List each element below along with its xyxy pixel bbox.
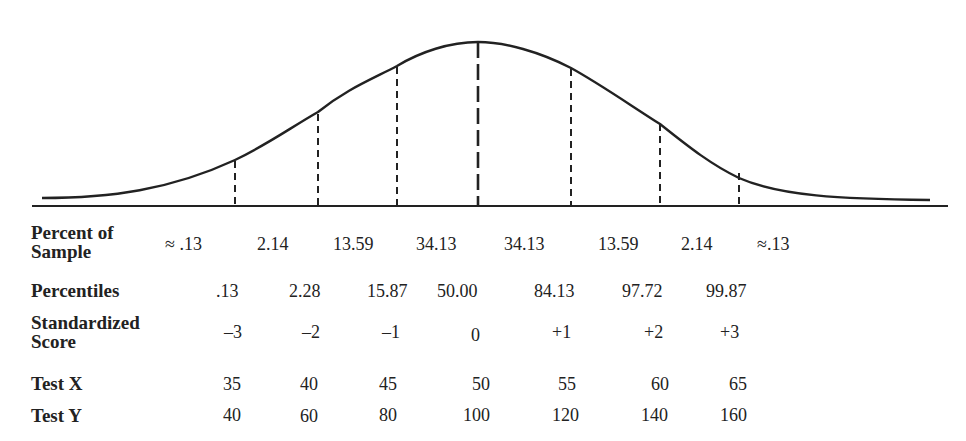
- bell-curve: [42, 42, 930, 200]
- std-score-value: 0: [471, 326, 480, 344]
- std-score-value: –2: [302, 323, 320, 341]
- percent-of-sample-label: Percent of Sample: [31, 223, 113, 261]
- test-y-value: 80: [379, 406, 397, 424]
- test-x-value: 55: [558, 375, 576, 393]
- percent-value: 34.13: [416, 235, 457, 253]
- percent-value: ≈ .13: [165, 235, 202, 253]
- test-y-value: 120: [552, 406, 579, 424]
- test-y-value: 100: [463, 406, 490, 424]
- std-label-line1: Standardized: [31, 313, 140, 332]
- percent-value: 2.14: [681, 235, 713, 253]
- percentile-value: 99.87: [706, 282, 747, 300]
- percentile-value: 97.72: [622, 282, 663, 300]
- test-x-value: 40: [300, 375, 318, 393]
- test-x-value: 60: [651, 375, 669, 393]
- percent-label-line1: Percent of: [31, 223, 113, 242]
- test-x-value: 65: [729, 375, 747, 393]
- sd-dashed-lines: [235, 42, 739, 205]
- test-x-label: Test X: [31, 374, 83, 393]
- test-y-value: 140: [641, 406, 668, 424]
- percent-value: ≈.13: [757, 235, 789, 253]
- percent-value: 13.59: [333, 235, 374, 253]
- test-y-label: Test Y: [31, 406, 82, 425]
- std-score-value: +3: [720, 323, 739, 341]
- normal-curve-diagram: [0, 0, 966, 215]
- test-y-value: 60: [300, 407, 318, 425]
- percentile-value: 2.28: [289, 282, 321, 300]
- standardized-score-label: Standardized Score: [31, 313, 140, 351]
- percent-value: 34.13: [504, 235, 545, 253]
- percentile-value: 50.00: [437, 282, 478, 300]
- percentile-value: 15.87: [367, 282, 408, 300]
- std-score-value: +1: [552, 323, 571, 341]
- std-label-line2: Score: [31, 332, 140, 351]
- std-score-value: –1: [382, 323, 400, 341]
- percentile-value: 84.13: [534, 282, 575, 300]
- test-y-value: 40: [223, 406, 241, 424]
- test-y-value: 160: [720, 406, 747, 424]
- test-x-value: 50: [472, 375, 490, 393]
- percentiles-label: Percentiles: [31, 281, 119, 300]
- test-x-value: 35: [223, 375, 241, 393]
- test-x-value: 45: [379, 375, 397, 393]
- percent-value: 2.14: [257, 235, 289, 253]
- std-score-value: –3: [224, 323, 242, 341]
- percent-label-line2: Sample: [31, 242, 113, 261]
- std-score-value: +2: [644, 323, 663, 341]
- percent-value: 13.59: [598, 235, 639, 253]
- percentile-value: .13: [216, 282, 239, 300]
